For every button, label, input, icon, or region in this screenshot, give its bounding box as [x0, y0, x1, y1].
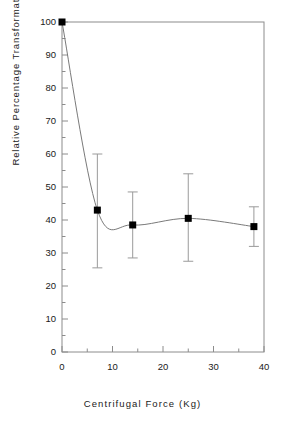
chart-figure: 0102030405060708090100010203040: [0, 0, 285, 421]
y-axis-tick-label: 60: [30, 148, 56, 159]
data-point-marker: [94, 207, 101, 214]
x-axis-title: Centrifugal Force (Kg): [0, 398, 285, 409]
y-axis-tick-label: 30: [30, 247, 56, 258]
y-axis-tick-label: 50: [30, 181, 56, 192]
y-axis-tick-label: 70: [30, 115, 56, 126]
x-axis-tick-label: 20: [150, 361, 176, 372]
data-point-marker: [250, 223, 257, 230]
chart-plot-area: [0, 0, 285, 421]
y-axis-tick-label: 100: [30, 16, 56, 27]
data-point-marker: [59, 19, 66, 26]
x-axis-tick-label: 40: [251, 361, 277, 372]
data-point-marker: [129, 221, 136, 228]
y-axis-tick-label: 0: [30, 346, 56, 357]
x-axis-tick-label: 0: [49, 361, 75, 372]
x-axis-tick-label: 30: [201, 361, 227, 372]
x-axis-tick-label: 10: [100, 361, 126, 372]
data-point-marker: [185, 215, 192, 222]
y-axis-tick-label: 40: [30, 214, 56, 225]
y-axis-tick-label: 10: [30, 313, 56, 324]
plot-frame: [62, 22, 264, 352]
y-axis-tick-label: 90: [30, 49, 56, 60]
y-axis-tick-label: 80: [30, 82, 56, 93]
data-line: [62, 22, 254, 230]
y-axis-tick-label: 20: [30, 280, 56, 291]
